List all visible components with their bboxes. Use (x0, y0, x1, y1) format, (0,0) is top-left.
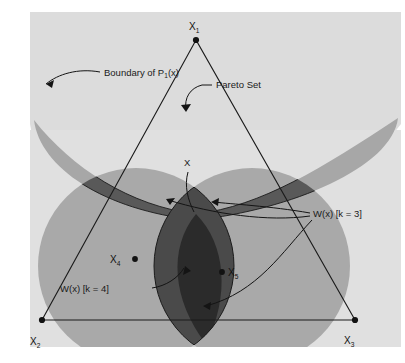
point-dot-x5 (219, 269, 225, 275)
label-x: X (184, 157, 191, 168)
label-wx-k3: W(x) [k = 3] (313, 208, 362, 219)
diagram-canvas: Boundary of P1(x) Pareto Set X W(x) [k =… (0, 0, 405, 363)
figure-panel: Boundary of P1(x) Pareto Set X W(x) [k =… (0, 0, 405, 363)
vertex-dot-x2 (39, 317, 45, 323)
vertex-dot-x3 (352, 317, 358, 323)
label-wx-k4: W(x) [k = 4] (60, 283, 109, 294)
point-dot-x4 (132, 256, 138, 262)
vertex-dot-x1 (193, 37, 199, 43)
label-pareto-set: Pareto Set (216, 79, 261, 90)
label-boundary-p1: Boundary of P1(x) (104, 67, 179, 79)
